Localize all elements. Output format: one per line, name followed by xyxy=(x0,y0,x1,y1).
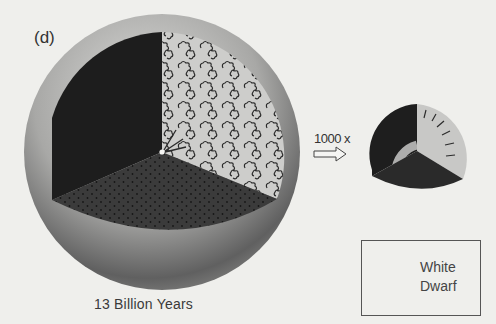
panel-label: (d) xyxy=(34,28,55,48)
hollow-right-arrow-icon xyxy=(314,147,346,161)
magnification-label: 1000 x xyxy=(314,131,350,146)
star-cutaway-large xyxy=(24,14,300,290)
core-point xyxy=(159,149,164,154)
figure-caption: 13 Billion Years xyxy=(94,296,193,312)
legend-line-2: Dwarf xyxy=(420,277,457,296)
legend-line-1: White xyxy=(420,258,457,277)
star-cutaway-small xyxy=(369,104,467,189)
legend-text: White Dwarf xyxy=(420,258,457,296)
